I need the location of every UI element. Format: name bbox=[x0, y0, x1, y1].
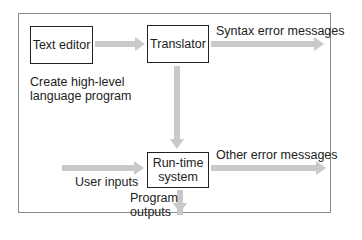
arrow-user-inputs-to-runtime bbox=[62, 161, 144, 175]
arrow-runtime-to-other-errors bbox=[211, 161, 326, 175]
label-user-inputs: User inputs bbox=[75, 175, 138, 189]
arrow-editor-to-translator bbox=[95, 37, 145, 51]
arrow-translator-to-syntax-errors bbox=[211, 37, 324, 51]
node-runtime-system: Run-time system bbox=[147, 152, 209, 188]
label-program-outputs: Program outputs bbox=[130, 191, 178, 219]
label-other-errors: Other error messages bbox=[216, 148, 338, 162]
label-create-program: Create high-level language program bbox=[30, 75, 131, 103]
node-translator: Translator bbox=[147, 25, 209, 63]
node-text-editor-label: Text editor bbox=[33, 38, 91, 52]
node-runtime-label-2: system bbox=[158, 170, 198, 184]
node-runtime-label-1: Run-time bbox=[153, 156, 204, 170]
label-syntax-errors: Syntax error messages bbox=[216, 24, 345, 38]
arrow-translator-to-runtime bbox=[170, 66, 184, 149]
node-text-editor: Text editor bbox=[30, 26, 93, 64]
node-translator-label: Translator bbox=[150, 37, 206, 51]
